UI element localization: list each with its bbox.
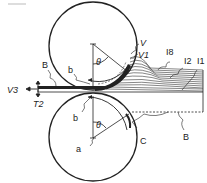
compacted-strip bbox=[38, 86, 108, 89]
label-b-small-top: b bbox=[68, 65, 73, 75]
label-theta-bottom: θ bbox=[96, 120, 101, 130]
lower-roll-arc bbox=[88, 97, 127, 130]
roll-diagram: V V1 I8 I2 I1 B b V3 T2 b θ θ a C B bbox=[0, 0, 207, 183]
leader-lines bbox=[48, 44, 197, 146]
label-b-small-bottom: b bbox=[73, 113, 78, 123]
label-i8: I8 bbox=[166, 47, 174, 57]
label-t2: T2 bbox=[33, 99, 44, 109]
label-theta-top: θ bbox=[96, 57, 101, 67]
lower-angle-lines bbox=[90, 96, 129, 138]
label-i2: I2 bbox=[184, 56, 192, 66]
label-c: C bbox=[140, 136, 147, 146]
label-a: a bbox=[76, 144, 81, 154]
label-v: V bbox=[140, 38, 147, 48]
v3-arrow bbox=[26, 81, 40, 97]
label-i1: I1 bbox=[197, 56, 205, 66]
label-v1: V1 bbox=[138, 50, 149, 60]
label-b-top: B bbox=[42, 60, 48, 70]
label-v3: V3 bbox=[7, 85, 18, 95]
label-b-bottom: B bbox=[183, 132, 189, 142]
